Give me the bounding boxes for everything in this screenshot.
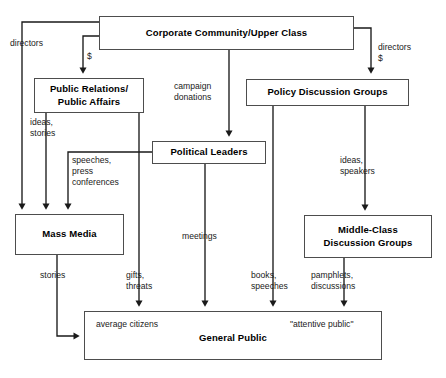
edge-label-speeches-press-line-1: speeches,: [72, 155, 119, 166]
edge-label-meetings-line-1: meetings: [182, 231, 217, 241]
edge-massmedia-to-generalpublic: [57, 255, 77, 336]
node-corporate-community[interactable]: Corporate Community/Upper Class: [99, 16, 354, 50]
edge-label-stories-line-1: stories: [40, 270, 65, 280]
edge-label-books-speeches-line-2: speeches: [251, 281, 288, 292]
edge-label-meetings: meetings: [182, 231, 217, 242]
node-policy-discussion-groups-label-1: Policy Discussion Groups: [267, 86, 387, 99]
edge-label-dollar-left: $: [87, 51, 92, 62]
edge-label-ideas-speakers-line-2: speakers: [340, 166, 375, 177]
edge-label-books-speeches: books, speeches: [251, 270, 288, 292]
node-political-leaders-label-1: Political Leaders: [170, 146, 247, 159]
label-average-citizens: average citizens: [96, 319, 158, 329]
edge-label-dollar-left-line-1: $: [87, 51, 92, 61]
edge-label-ideas-speakers: ideas, speakers: [340, 155, 375, 177]
edge-label-ideas-speakers-line-1: ideas,: [340, 155, 375, 166]
node-general-public-label-1: General Public: [199, 332, 267, 345]
edge-label-pamphlets-discussions-line-1: pamphlets,: [311, 270, 355, 281]
power-structure-diagram: Corporate Community/Upper Class Public R…: [0, 0, 446, 378]
edge-label-speeches-press-line-2: press: [72, 166, 119, 177]
node-public-relations-label-2: Public Affairs: [58, 96, 120, 109]
edge-label-gifts-threats-line-1: gifts,: [126, 270, 152, 281]
edge-label-directors-left-line-1: directors: [10, 38, 43, 48]
node-mass-media-label-1: Mass Media: [42, 228, 96, 241]
node-policy-discussion-groups[interactable]: Policy Discussion Groups: [246, 79, 409, 106]
node-mass-media[interactable]: Mass Media: [15, 214, 124, 255]
edge-label-campaign-donations: campaign donations: [174, 81, 211, 103]
node-political-leaders[interactable]: Political Leaders: [152, 141, 266, 164]
node-middle-class-label-2: Discussion Groups: [324, 237, 413, 250]
edge-label-ideas-stories-line-1: ideas,: [30, 117, 55, 128]
edge-label-directors-right-line-1: directors: [378, 42, 411, 53]
edge-label-campaign-donations-line-1: campaign: [174, 81, 211, 92]
edge-label-directors-right: directors $: [378, 42, 411, 64]
node-public-relations[interactable]: Public Relations/ Public Affairs: [34, 78, 144, 113]
edge-label-pamphlets-discussions: pamphlets, discussions: [311, 270, 355, 292]
edge-label-ideas-stories: ideas, stories: [30, 117, 55, 139]
edge-label-speeches-press-conferences: speeches, press conferences: [72, 155, 119, 188]
edge-corporate-to-policygroups: [354, 28, 371, 71]
label-attentive-public: "attentive public": [290, 319, 353, 329]
edge-label-gifts-threats: gifts, threats: [126, 270, 152, 292]
edge-label-speeches-press-line-3: conferences: [72, 177, 119, 188]
node-corporate-community-label-1: Corporate Community/Upper Class: [146, 27, 307, 40]
edge-label-stories: stories: [40, 270, 65, 281]
node-middle-class-label-1: Middle-Class: [338, 224, 398, 237]
edge-label-books-speeches-line-1: books,: [251, 270, 288, 281]
edge-label-gifts-threats-line-2: threats: [126, 281, 152, 292]
edge-label-pamphlets-discussions-line-2: discussions: [311, 281, 355, 292]
edge-label-directors-right-line-2: $: [378, 53, 411, 64]
edge-label-ideas-stories-line-2: stories: [30, 128, 55, 139]
node-middle-class-discussion-groups[interactable]: Middle-Class Discussion Groups: [304, 215, 432, 258]
edge-label-directors-left: directors: [10, 38, 43, 49]
edge-label-campaign-donations-line-2: donations: [174, 92, 211, 103]
node-public-relations-label-1: Public Relations/: [50, 83, 128, 96]
